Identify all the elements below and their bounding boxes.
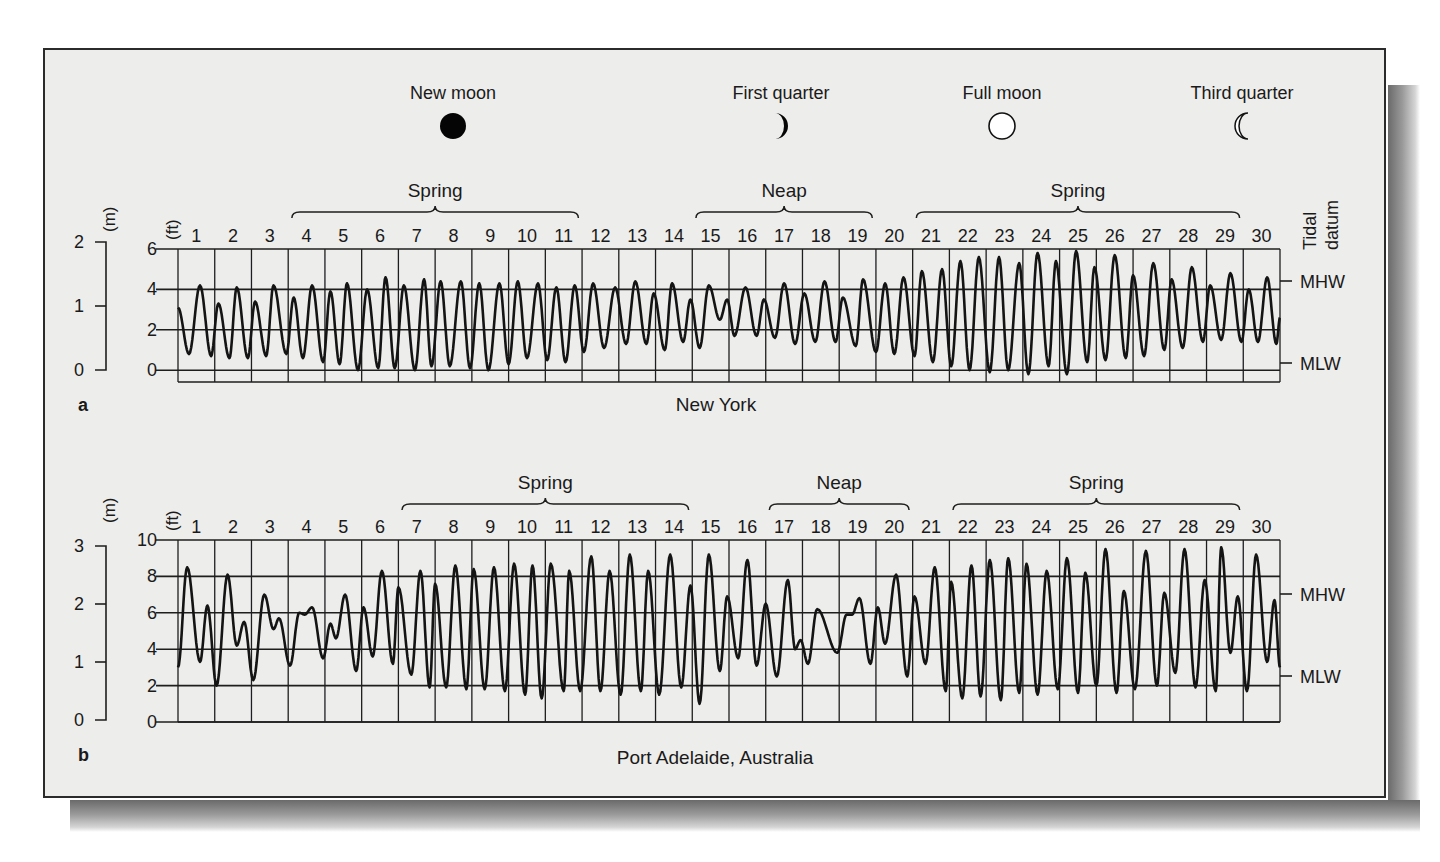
- x-tick-day: 12: [590, 517, 610, 537]
- x-tick-day: 9: [485, 226, 495, 246]
- x-tick-day: 29: [1215, 517, 1235, 537]
- panel-title: New York: [676, 394, 757, 415]
- x-tick-day: 3: [265, 517, 275, 537]
- tide-figure: New moonFirst quarterFull moonThird quar…: [0, 0, 1440, 862]
- y-tick-m: 2: [74, 232, 84, 252]
- unit-label-m: (m): [100, 498, 119, 523]
- x-tick-day: 18: [811, 517, 831, 537]
- moon-phase-label: First quarter: [732, 83, 829, 103]
- moon-phase-label: Full moon: [962, 83, 1041, 103]
- period-brace: [402, 498, 689, 510]
- panel-label: a: [78, 395, 89, 415]
- x-tick-day: 4: [302, 517, 312, 537]
- y-tick-m: 0: [74, 710, 84, 730]
- datum-marker-mlw: MLW: [1300, 667, 1341, 687]
- period-brace: [696, 206, 872, 218]
- period-brace: [769, 498, 909, 510]
- unit-label-m: (m): [100, 207, 119, 232]
- y-tick-ft: 6: [147, 603, 157, 623]
- x-tick-day: 27: [1141, 226, 1161, 246]
- x-tick-day: 8: [448, 226, 458, 246]
- x-tick-day: 23: [994, 517, 1014, 537]
- x-tick-day: 13: [627, 226, 647, 246]
- x-tick-day: 30: [1252, 226, 1272, 246]
- x-tick-day: 4: [302, 226, 312, 246]
- x-tick-day: 2: [228, 226, 238, 246]
- x-tick-day: 30: [1252, 517, 1272, 537]
- x-tick-day: 18: [811, 226, 831, 246]
- period-label: Spring: [518, 472, 573, 493]
- period-brace: [292, 206, 579, 218]
- x-tick-day: 12: [590, 226, 610, 246]
- x-tick-day: 8: [448, 517, 458, 537]
- x-tick-day: 1: [191, 226, 201, 246]
- y-tick-ft: 4: [147, 279, 157, 299]
- panel-b-port-adelaide: 0246810123456789101112131415161718192021…: [74, 472, 1345, 768]
- panel-label: b: [78, 745, 89, 765]
- x-tick-day: 21: [921, 226, 941, 246]
- tidal-label: Tidal: [1300, 212, 1320, 250]
- datum-marker-mlw: MLW: [1300, 354, 1341, 374]
- y-tick-ft: 0: [147, 712, 157, 732]
- x-tick-day: 1: [191, 517, 201, 537]
- datum-marker-mhw: MHW: [1300, 272, 1345, 292]
- unit-label-ft: (ft): [163, 219, 182, 240]
- x-tick-day: 3: [265, 226, 275, 246]
- y-tick-m: 2: [74, 594, 84, 614]
- x-tick-day: 19: [848, 226, 868, 246]
- period-label: Spring: [408, 180, 463, 201]
- period-label: Neap: [761, 180, 806, 201]
- full-moon-icon: [989, 113, 1015, 139]
- y-tick-ft: 6: [147, 239, 157, 259]
- x-tick-day: 28: [1178, 517, 1198, 537]
- x-tick-day: 15: [701, 226, 721, 246]
- third-quarter-moon-icon: [1235, 113, 1248, 139]
- x-tick-day: 23: [994, 226, 1014, 246]
- x-tick-day: 5: [338, 226, 348, 246]
- period-brace: [953, 498, 1240, 510]
- panel-a-new-york: 0246123456789101112131415161718192021222…: [74, 180, 1345, 415]
- new-moon-icon: [440, 113, 466, 139]
- moon-phase-label: New moon: [410, 83, 496, 103]
- x-tick-day: 21: [921, 517, 941, 537]
- x-tick-day: 13: [627, 517, 647, 537]
- period-label: Spring: [1051, 180, 1106, 201]
- unit-label-ft: (ft): [163, 510, 182, 531]
- x-tick-day: 14: [664, 226, 684, 246]
- x-tick-day: 20: [884, 517, 904, 537]
- period-label: Spring: [1069, 472, 1124, 493]
- x-tick-day: 14: [664, 517, 684, 537]
- x-tick-day: 20: [884, 226, 904, 246]
- x-tick-day: 7: [412, 517, 422, 537]
- x-tick-day: 22: [958, 226, 978, 246]
- x-tick-day: 22: [958, 517, 978, 537]
- x-tick-day: 15: [701, 517, 721, 537]
- y-tick-ft: 2: [147, 320, 157, 340]
- meter-scale-bracket: [95, 546, 106, 720]
- y-tick-ft: 8: [147, 566, 157, 586]
- y-tick-ft: 4: [147, 639, 157, 659]
- x-tick-day: 11: [554, 517, 573, 537]
- x-tick-day: 2: [228, 517, 238, 537]
- x-tick-day: 26: [1105, 517, 1125, 537]
- x-tick-day: 10: [517, 226, 537, 246]
- x-tick-day: 16: [737, 517, 757, 537]
- x-tick-day: 16: [737, 226, 757, 246]
- panel-title: Port Adelaide, Australia: [617, 747, 814, 768]
- y-tick-m: 0: [74, 360, 84, 380]
- moon-phase-label: Third quarter: [1190, 83, 1293, 103]
- x-tick-day: 27: [1141, 517, 1161, 537]
- x-tick-day: 17: [774, 226, 794, 246]
- x-tick-day: 26: [1105, 226, 1125, 246]
- x-tick-day: 29: [1215, 226, 1235, 246]
- x-tick-day: 11: [554, 226, 573, 246]
- y-tick-ft: 0: [147, 360, 157, 380]
- y-tick-m: 3: [74, 536, 84, 556]
- moon-phase-row: New moonFirst quarterFull moonThird quar…: [410, 83, 1294, 139]
- first-quarter-moon-icon: [775, 113, 788, 139]
- y-tick-ft: 10: [137, 530, 157, 550]
- x-tick-day: 24: [1031, 517, 1051, 537]
- x-tick-day: 25: [1068, 226, 1088, 246]
- x-tick-day: 19: [848, 517, 868, 537]
- y-tick-m: 1: [74, 296, 84, 316]
